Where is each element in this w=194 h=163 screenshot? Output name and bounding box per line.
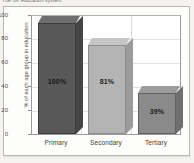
x-label-tertiary: Tertiary bbox=[131, 137, 181, 149]
bar-tertiary[interactable]: 39% bbox=[138, 86, 176, 134]
y-tick-label-0: 0 bbox=[0, 131, 8, 137]
bar-primary-value-label: 100% bbox=[38, 78, 76, 85]
x-label-secondary: Secondary bbox=[81, 137, 131, 149]
bar-secondary-value-label: 81% bbox=[88, 78, 126, 85]
clipped-document-title: The UK education system bbox=[2, 0, 152, 4]
bar-tertiary-value-label: 39% bbox=[138, 108, 176, 115]
x-axis-labels: Primary Secondary Tertiary bbox=[31, 137, 181, 149]
y-tick-label-60: 60 bbox=[0, 59, 8, 65]
chart-frame: % of each age group in education 100 80 … bbox=[3, 6, 190, 156]
bar-secondary[interactable]: 81% bbox=[88, 38, 126, 134]
bar-secondary-front-face bbox=[88, 45, 126, 134]
bar-secondary-side-face bbox=[126, 38, 133, 134]
plot-area: 100% 81% 39% bbox=[31, 15, 181, 135]
page-shadow bbox=[3, 156, 191, 158]
y-tick-label-80: 80 bbox=[0, 35, 8, 41]
bar-secondary-top-face bbox=[88, 38, 130, 45]
bar-primary-side-face bbox=[76, 16, 83, 134]
y-tick-label-20: 20 bbox=[0, 107, 8, 113]
chart-page: The UK education system % of each age gr… bbox=[0, 0, 194, 163]
bar-primary[interactable]: 100% bbox=[38, 16, 76, 134]
y-tick-label-100: 100 bbox=[0, 12, 8, 18]
bar-tertiary-top-face bbox=[138, 86, 180, 93]
bar-tertiary-side-face bbox=[176, 86, 183, 134]
bar-primary-top-face bbox=[38, 16, 80, 23]
y-tick-label-40: 40 bbox=[0, 83, 8, 89]
clipped-title-text: The UK education system bbox=[2, 0, 152, 3]
x-label-primary: Primary bbox=[31, 137, 81, 149]
chart-inner: % of each age group in education 100 80 … bbox=[4, 7, 189, 155]
